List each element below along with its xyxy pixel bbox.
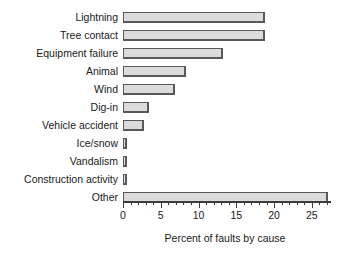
bar-row: Construction activity: [0, 170, 350, 188]
x-axis-minor-tick: [297, 201, 298, 205]
category-label: Dig-in: [0, 98, 118, 116]
x-axis-line: [123, 201, 331, 203]
category-label: Other: [0, 188, 118, 206]
category-label: Animal: [0, 62, 118, 80]
x-axis-title-text: Percent of faults by cause: [65, 232, 286, 244]
x-axis-tick-label: 15: [221, 209, 251, 222]
bar: [123, 84, 175, 95]
x-axis-minor-tick: [282, 201, 283, 205]
bar: [123, 30, 265, 41]
x-axis-tick-label: 5: [146, 209, 176, 222]
x-axis-minor-tick: [168, 201, 169, 205]
category-label: Ice/snow: [0, 134, 118, 152]
x-axis-minor-tick: [244, 201, 245, 205]
bar-track: [123, 30, 265, 41]
x-axis-minor-tick: [304, 201, 305, 205]
x-axis-major-tick: [312, 201, 313, 208]
bar: [123, 12, 265, 23]
bar-row: Vehicle accident: [0, 116, 350, 134]
bar: [123, 66, 186, 77]
bar-track: [123, 138, 127, 149]
bar: [123, 48, 223, 59]
x-axis-minor-tick: [221, 201, 222, 205]
x-axis-minor-tick: [251, 201, 252, 205]
bar-track: [123, 66, 186, 77]
x-axis-minor-tick: [319, 201, 320, 205]
x-axis-minor-tick: [131, 201, 132, 205]
bar: [123, 120, 144, 131]
bar-row: Equipment failure: [0, 44, 350, 62]
x-axis-major-tick: [199, 201, 200, 208]
x-axis-tick-label: 25: [297, 209, 327, 222]
bar-row: Dig-in: [0, 98, 350, 116]
x-axis-minor-tick: [289, 201, 290, 205]
x-axis-minor-tick: [138, 201, 139, 205]
x-axis-major-tick: [236, 201, 237, 208]
bar-row: Lightning: [0, 8, 350, 26]
category-label: Wind: [0, 80, 118, 98]
category-label: Construction activity: [0, 170, 118, 188]
x-axis-title: Percent of faults by cause: [0, 232, 350, 244]
category-label: Equipment failure: [0, 44, 118, 62]
bar: [123, 102, 149, 113]
bar-chart: LightningTree contactEquipment failureAn…: [0, 0, 350, 259]
x-axis-minor-tick: [229, 201, 230, 205]
bar-row: Tree contact: [0, 26, 350, 44]
bar-track: [123, 120, 144, 131]
x-axis-tick-label: 20: [259, 209, 289, 222]
x-axis-minor-tick: [327, 201, 328, 205]
x-axis-minor-tick: [146, 201, 147, 205]
bar-track: [123, 102, 149, 113]
bar: [123, 156, 127, 167]
category-label: Tree contact: [0, 26, 118, 44]
x-axis-minor-tick: [267, 201, 268, 205]
x-axis-tick-label: 0: [108, 209, 138, 222]
x-axis-minor-tick: [214, 201, 215, 205]
x-axis-minor-tick: [176, 201, 177, 205]
category-label: Vandalism: [0, 152, 118, 170]
bar-track: [123, 156, 127, 167]
bar: [123, 138, 127, 149]
x-axis-minor-tick: [183, 201, 184, 205]
bar-track: [123, 84, 175, 95]
bar-track: [123, 48, 223, 59]
bar-track: [123, 174, 127, 185]
x-axis-major-tick: [161, 201, 162, 208]
bar-track: [123, 12, 265, 23]
bar-row: Vandalism: [0, 152, 350, 170]
bar-row: Ice/snow: [0, 134, 350, 152]
category-label: Lightning: [0, 8, 118, 26]
bar: [123, 174, 127, 185]
x-axis-tick-label: 10: [184, 209, 214, 222]
x-axis-minor-tick: [259, 201, 260, 205]
x-axis-minor-tick: [153, 201, 154, 205]
x-axis-minor-tick: [206, 201, 207, 205]
bar-row: Wind: [0, 80, 350, 98]
x-axis-major-tick: [274, 201, 275, 208]
category-label: Vehicle accident: [0, 116, 118, 134]
x-axis-major-tick: [123, 201, 124, 208]
bar-row: Animal: [0, 62, 350, 80]
x-axis-minor-tick: [191, 201, 192, 205]
